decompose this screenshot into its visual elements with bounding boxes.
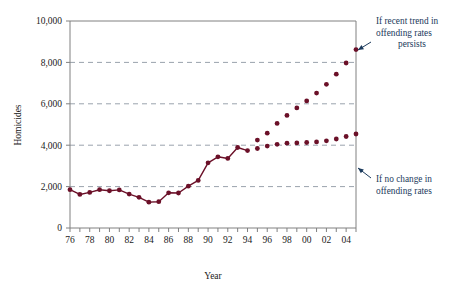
y-tick-label-2000: 2,000 (41, 182, 63, 192)
data-point (275, 142, 280, 147)
data-point (285, 141, 290, 146)
x-tick-label-2004: 04 (341, 235, 351, 245)
chart-canvas: 02,0004,0006,0008,00010,000 767880828486… (0, 0, 456, 287)
x-tick-label-1998: 98 (282, 235, 292, 245)
data-point (77, 192, 82, 197)
annotation-lower: If no change inoffending rates (358, 168, 432, 196)
y-axis-ticks: 02,0004,0006,0008,00010,000 (36, 16, 70, 233)
annotation-line: offending rates (376, 28, 432, 38)
x-axis-title: Year (204, 271, 222, 281)
x-tick-label-1984: 84 (144, 235, 154, 245)
data-point (304, 140, 309, 145)
x-tick-label-2000: 00 (302, 235, 312, 245)
data-point (334, 137, 339, 142)
y-tick-label-4000: 4,000 (41, 141, 63, 151)
data-point (225, 156, 230, 161)
x-tick-label-1982: 82 (124, 235, 134, 245)
data-series-layer (68, 47, 359, 204)
data-point (265, 144, 270, 149)
data-point (245, 148, 250, 153)
data-point (255, 146, 260, 151)
y-tick-label-0: 0 (57, 223, 62, 233)
data-point (334, 72, 339, 77)
data-point (117, 188, 122, 193)
x-tick-label-1976: 76 (65, 235, 75, 245)
data-point (344, 134, 349, 139)
y-tick-label-10000: 10,000 (36, 16, 62, 26)
data-point (206, 160, 211, 165)
data-point (196, 178, 201, 183)
y-tick-label-8000: 8,000 (41, 58, 63, 68)
data-point (344, 61, 349, 66)
data-point (265, 131, 270, 136)
annotation-line: If recent trend in (376, 16, 439, 26)
data-point (294, 106, 299, 111)
annotation-line: offending rates (376, 186, 432, 196)
x-axis-ticks: 767880828486889092949698000204 (65, 228, 356, 245)
data-point (107, 188, 112, 193)
annotation-line: persists (398, 39, 426, 49)
data-point (176, 191, 181, 196)
data-point (324, 82, 329, 87)
data-point (314, 139, 319, 144)
y-tick-label-6000: 6,000 (41, 99, 63, 109)
data-point (255, 138, 260, 143)
x-tick-label-1978: 78 (85, 235, 95, 245)
data-point (166, 190, 171, 195)
data-point (97, 187, 102, 192)
x-tick-label-2002: 02 (322, 235, 332, 245)
data-point (216, 154, 221, 159)
data-point (275, 121, 280, 126)
data-point (68, 187, 73, 192)
data-point (127, 192, 132, 197)
series-line-0 (70, 147, 248, 202)
x-tick-label-1988: 88 (184, 235, 194, 245)
x-tick-label-1980: 80 (105, 235, 115, 245)
data-point (147, 200, 152, 205)
y-axis-title: Homicides (13, 104, 23, 145)
data-point (186, 184, 191, 189)
series-2 (255, 132, 358, 151)
data-point (324, 138, 329, 143)
annotation-arrowhead (358, 45, 364, 50)
annotation-arrowhead (358, 168, 364, 173)
data-point (354, 132, 359, 137)
data-point (156, 199, 161, 204)
series-1 (255, 47, 358, 142)
data-point (235, 145, 240, 150)
x-tick-label-1994: 94 (243, 235, 253, 245)
x-tick-label-1992: 92 (223, 235, 233, 245)
series-0 (68, 145, 250, 204)
data-point (285, 113, 290, 118)
data-point (314, 91, 319, 96)
data-point (304, 99, 309, 104)
annotation-upper: If recent trend inoffending ratespersist… (358, 16, 439, 50)
homicides-forecast-chart: 02,0004,0006,0008,00010,000 767880828486… (0, 0, 456, 287)
data-point (354, 47, 359, 52)
annotation-line: If no change in (376, 174, 432, 184)
x-tick-label-1986: 86 (164, 235, 174, 245)
x-tick-label-1990: 90 (203, 235, 213, 245)
annotation-layer: If recent trend inoffending ratespersist… (358, 16, 439, 196)
gridlines (70, 62, 356, 186)
axes (70, 21, 356, 228)
data-point (137, 195, 142, 200)
x-tick-label-1996: 96 (262, 235, 272, 245)
data-point (294, 141, 299, 146)
data-point (87, 190, 92, 195)
